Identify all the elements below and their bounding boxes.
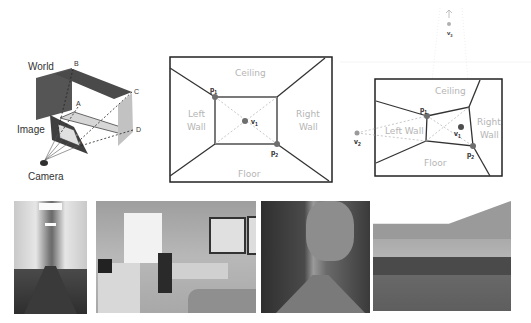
corridor-floor (24, 266, 77, 314)
label-d: d (78, 140, 80, 145)
ceiling-light-far (45, 223, 56, 226)
point-v1 (242, 118, 248, 124)
world-right-plane (118, 93, 133, 146)
label-c: c (76, 132, 78, 137)
right-wall-label-1: Right (296, 109, 320, 119)
ceiling-label: Ceiling (235, 68, 266, 78)
three-point-room-diagram: p1 p2 v1 v2 v3 Ceiling Left Wall Right W… (340, 0, 531, 190)
photo-narrow-street: narrow-street (261, 201, 370, 313)
right-wall-label-1: Right (477, 117, 501, 127)
label-D: D (136, 126, 141, 133)
window (124, 213, 162, 263)
photo-office-room: office-room (96, 201, 256, 313)
photo-corridor: corridor (14, 201, 87, 314)
label-A: A (76, 100, 81, 107)
camera-icon (40, 160, 48, 166)
bed (188, 289, 256, 313)
point-p2 (274, 141, 280, 147)
point-v3 (447, 22, 451, 26)
cobblestone-road (271, 275, 370, 313)
tree (306, 201, 354, 261)
v3-label: v3 (447, 30, 453, 38)
projection-diagram: World B A C D b a c d Image Camera (0, 50, 160, 195)
camera-label: Camera (28, 171, 64, 182)
monitor (98, 259, 112, 273)
ceiling-light (39, 203, 62, 210)
photo-courtyard: courtyard (373, 201, 511, 311)
desk-right (166, 263, 228, 279)
v2-label: v2 (354, 138, 361, 147)
label-C: C (134, 88, 139, 95)
picture-frame-2 (247, 216, 256, 255)
up-arrow-icon (446, 10, 452, 18)
label-B: B (74, 60, 79, 67)
left-wall-label-2: Wall (187, 122, 206, 132)
floor-label: Floor (238, 169, 261, 179)
point-p1 (212, 94, 218, 100)
vanishing-lines-v3 (432, 8, 468, 80)
right-wall-label-2: Wall (480, 130, 499, 140)
one-point-room-diagram: p1 p2 v1 Ceiling Left Wall Right Wall Fl… (165, 52, 340, 192)
picture-frame (209, 217, 246, 254)
world-label: World (28, 61, 54, 72)
chair (158, 253, 172, 293)
left-wall-label-1: Left (188, 109, 205, 119)
point-v1 (458, 124, 464, 130)
image-label: Image (17, 124, 45, 135)
ceiling-label: Ceiling (435, 86, 466, 96)
point-p2 (470, 143, 476, 149)
left-wall-label: Left Wall (385, 126, 424, 136)
floor-label: Floor (424, 158, 447, 168)
point-v2 (355, 131, 360, 136)
right-wall-label-2: Wall (299, 122, 318, 132)
hedges (373, 257, 511, 275)
building-roof (373, 201, 511, 239)
